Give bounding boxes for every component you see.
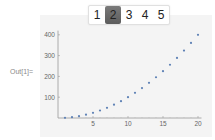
data-point [197, 34, 199, 36]
y-tick-label: 400 [44, 31, 55, 38]
data-point [92, 112, 94, 114]
data-point [113, 104, 115, 106]
data-point [127, 96, 129, 98]
setter-option-2[interactable]: 2 [105, 6, 121, 24]
data-point [141, 87, 143, 89]
data-point [106, 107, 108, 109]
data-point [155, 76, 157, 78]
x-tick-label: 5 [91, 120, 95, 127]
setter-option-4[interactable]: 4 [137, 6, 153, 24]
data-point [78, 115, 80, 117]
data-point [183, 50, 185, 52]
data-point [64, 117, 66, 119]
data-point [190, 42, 192, 44]
setter-option-5[interactable]: 5 [153, 6, 169, 24]
data-point [99, 109, 101, 111]
data-point [120, 100, 122, 102]
y-tick-label: 300 [44, 52, 55, 59]
y-tick-label: 100 [44, 94, 55, 101]
data-point [134, 92, 136, 94]
data-point [162, 70, 164, 72]
y-tick-label: 200 [44, 73, 55, 80]
x-tick-label: 20 [194, 120, 202, 127]
data-point [169, 64, 171, 66]
setter-bar: 1 2 3 4 5 [88, 5, 170, 25]
data-point [85, 114, 87, 116]
data-point [71, 116, 73, 118]
setter-option-3[interactable]: 3 [121, 6, 137, 24]
data-point [148, 82, 150, 84]
x-tick-label: 10 [124, 120, 132, 127]
data-point [176, 57, 178, 59]
setter-option-1[interactable]: 1 [89, 6, 105, 24]
x-tick-label: 15 [159, 120, 167, 127]
